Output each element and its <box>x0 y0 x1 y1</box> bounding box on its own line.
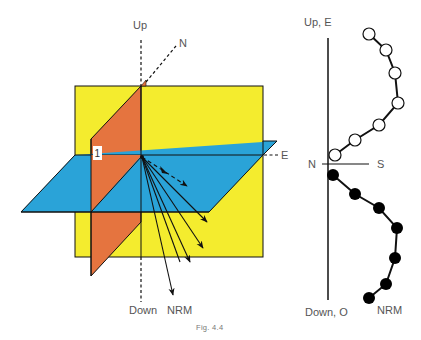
left-diagram: 1 Up N E Down NRM Fig. 4.4 <box>21 19 288 332</box>
origin-point <box>140 155 144 159</box>
down-label: Down <box>129 304 157 316</box>
right-plot: Up, E N S Down, O NRM <box>304 16 404 318</box>
up-label: Up <box>133 19 147 31</box>
figure-canvas: 1 Up N E Down NRM Fig. 4.4 <box>0 0 421 340</box>
blue-plane-corner <box>263 141 277 155</box>
nrm-label: NRM <box>167 304 192 316</box>
down-o-label: Down, O <box>305 306 348 318</box>
filled-circle-markers <box>327 169 403 304</box>
south-axis-label: S <box>377 158 384 170</box>
figure-caption: Fig. 4.4 <box>196 323 223 332</box>
north-label: N <box>179 37 187 49</box>
plane-label: 1 <box>95 148 101 159</box>
north-axis-label: N <box>308 158 316 170</box>
orange-plane-tab <box>141 80 146 86</box>
open-circle-markers <box>329 28 404 161</box>
nrm-series-label: NRM <box>377 304 402 316</box>
east-label: E <box>281 149 288 161</box>
up-east-label: Up, E <box>304 16 332 28</box>
north-axis-dashed <box>146 46 176 82</box>
